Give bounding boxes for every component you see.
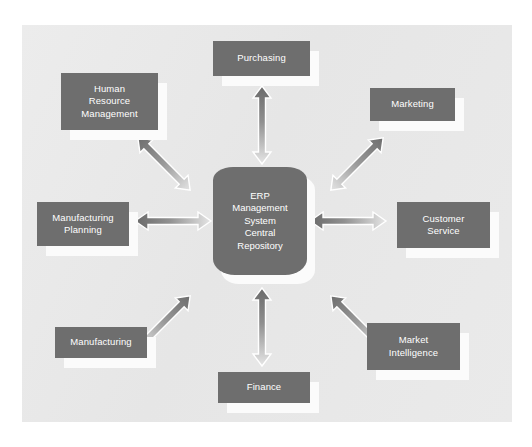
module-box-purchasing[interactable]: Purchasing	[213, 41, 310, 76]
module-box-human-resource-management-face: Human Resource Management	[61, 73, 158, 130]
module-box-manufacturing-face: Manufacturing	[55, 327, 147, 358]
module-box-market-intelligence[interactable]: Market Intelligence	[367, 323, 460, 370]
module-label-human-resource-management: Human Resource Management	[81, 83, 137, 121]
erp-central-repository-label: ERP Management System Central Repository	[232, 190, 287, 253]
connector-finance	[252, 288, 272, 366]
module-box-market-intelligence-face: Market Intelligence	[367, 323, 460, 370]
module-box-finance-face: Finance	[218, 372, 310, 403]
erp-central-repository-face: ERP Management System Central Repository	[213, 167, 307, 275]
connector-customer-service	[310, 211, 386, 231]
module-box-manufacturing-planning[interactable]: Manufacturing Planning	[37, 202, 129, 246]
module-box-customer-service-face: Customer Service	[397, 202, 490, 248]
module-box-manufacturing-planning-face: Manufacturing Planning	[37, 202, 129, 246]
module-box-purchasing-face: Purchasing	[213, 41, 310, 76]
erp-central-repository-node[interactable]: ERP Management System Central Repository	[213, 167, 307, 275]
module-label-finance: Finance	[247, 381, 282, 394]
module-label-market-intelligence: Market Intelligence	[389, 334, 438, 359]
module-box-manufacturing[interactable]: Manufacturing	[55, 327, 147, 358]
module-label-customer-service: Customer Service	[423, 213, 465, 238]
module-box-marketing-face: Marketing	[370, 88, 455, 121]
module-box-finance[interactable]: Finance	[218, 372, 310, 403]
connector-purchasing	[252, 86, 272, 164]
module-box-marketing[interactable]: Marketing	[370, 88, 455, 121]
module-label-manufacturing: Manufacturing	[70, 336, 132, 349]
module-box-human-resource-management[interactable]: Human Resource Management	[61, 73, 158, 130]
connector-manufacturing-planning	[135, 211, 211, 231]
diagram-canvas: ERP Management System Central Repository…	[0, 0, 532, 447]
module-label-purchasing: Purchasing	[237, 52, 286, 65]
module-box-customer-service[interactable]: Customer Service	[397, 202, 490, 248]
module-label-marketing: Marketing	[391, 98, 434, 111]
module-label-manufacturing-planning: Manufacturing Planning	[52, 212, 114, 237]
